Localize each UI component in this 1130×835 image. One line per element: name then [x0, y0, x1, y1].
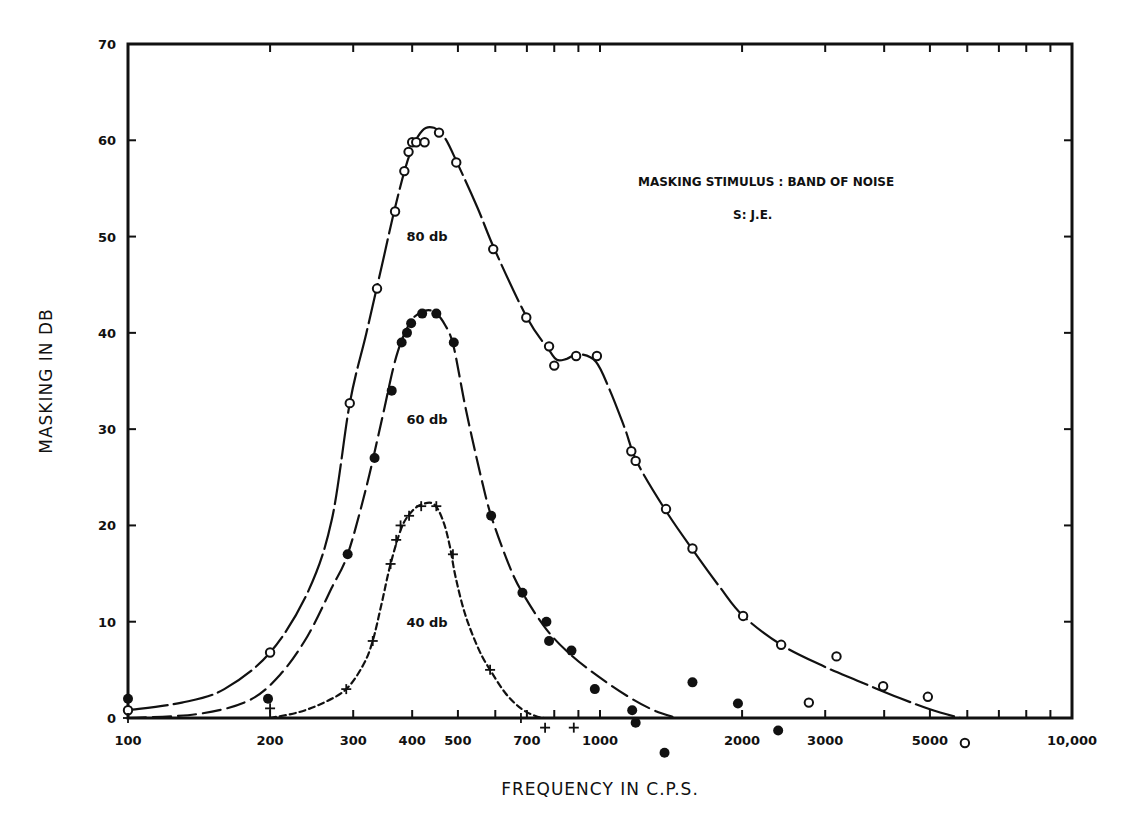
data-point-80-db [391, 207, 399, 215]
data-point-80-db [489, 245, 497, 253]
data-point-60-db [660, 748, 670, 758]
data-point-40-db [516, 713, 526, 723]
data-point-80-db [924, 693, 932, 701]
x-tick-label: 100 [114, 733, 141, 748]
data-point-80-db [412, 138, 420, 146]
y-tick-label: 40 [98, 326, 116, 341]
data-point-80-db [373, 284, 381, 292]
data-point-60-db [733, 699, 743, 709]
y-tick-label: 30 [98, 422, 116, 437]
data-point-80-db [879, 682, 887, 690]
data-point-60-db [417, 309, 427, 319]
plot-frame [128, 44, 1072, 718]
data-point-80-db [593, 352, 601, 360]
x-axis-title: FREQUENCY IN C.P.S. [501, 779, 699, 799]
ticks [128, 44, 1072, 718]
data-point-40-db [341, 684, 351, 694]
data-point-80-db [832, 652, 840, 660]
data-point-60-db [449, 337, 459, 347]
data-point-80-db [961, 739, 969, 747]
x-tick-label: 500 [444, 733, 471, 748]
annotation-subject: S: J.E. [733, 208, 772, 222]
data-point-60-db [387, 386, 397, 396]
data-point-80-db [627, 447, 635, 455]
series-label-80-db: 80 db [406, 229, 447, 244]
data-point-40-db [485, 665, 495, 675]
data-point-60-db [773, 726, 783, 736]
y-axis-title: MASKING IN DB [36, 308, 56, 453]
data-point-40-db [540, 723, 550, 733]
data-point-40-db [448, 549, 458, 559]
data-point-60-db [627, 705, 637, 715]
x-tick-label: 400 [399, 733, 426, 748]
x-tick-label: 3000 [807, 733, 843, 748]
data-point-40-db [386, 559, 396, 569]
data-point-40-db [265, 703, 275, 713]
data-point-60-db [263, 694, 273, 704]
x-tick-label: 10,000 [1047, 733, 1097, 748]
data-point-80-db [777, 641, 785, 649]
y-tick-label: 70 [98, 37, 116, 52]
series-label-60-db: 60 db [406, 412, 447, 427]
data-point-40-db [431, 501, 441, 511]
data-point-60-db [343, 549, 353, 559]
data-point-60-db [541, 617, 551, 627]
x-tick-label: 200 [257, 733, 284, 748]
series-label-40-db: 40 db [406, 615, 447, 630]
data-point-80-db [404, 148, 412, 156]
data-point-60-db [431, 309, 441, 319]
data-point-60-db [486, 511, 496, 521]
y-tick-label: 20 [98, 518, 116, 533]
data-point-80-db [452, 158, 460, 166]
data-point-40-db [569, 723, 579, 733]
curves [128, 127, 960, 718]
data-point-80-db [400, 167, 408, 175]
data-point-60-db [402, 328, 412, 338]
x-tick-label: 1000 [582, 733, 618, 748]
data-point-60-db [631, 718, 641, 728]
y-tick-label: 60 [98, 133, 116, 148]
data-point-40-db [391, 535, 401, 545]
data-point-60-db [123, 694, 133, 704]
series-line-80-db [128, 127, 960, 718]
data-point-60-db [397, 337, 407, 347]
data-point-80-db [550, 361, 558, 369]
data-point-60-db [687, 677, 697, 687]
data-point-80-db [662, 505, 670, 513]
data-point-60-db [370, 453, 380, 463]
series-line-60-db [128, 310, 676, 718]
y-tick-label: 0 [107, 711, 116, 726]
data-point-60-db [517, 588, 527, 598]
data-point-80-db [545, 342, 553, 350]
data-point-80-db [522, 313, 530, 321]
data-point-60-db [590, 684, 600, 694]
data-point-80-db [346, 399, 354, 407]
y-tick-label: 50 [98, 230, 116, 245]
labels: 100200300400500700100020003000500010,000… [98, 37, 1097, 748]
data-point-40-db [368, 636, 378, 646]
data-point-80-db [739, 612, 747, 620]
data-point-60-db [566, 646, 576, 656]
data-point-60-db [406, 318, 416, 328]
annotation-stimulus: MASKING STIMULUS : BAND OF NOISE [638, 175, 894, 189]
x-tick-label: 700 [513, 733, 540, 748]
data-point-80-db [572, 352, 580, 360]
masking-chart: 100200300400500700100020003000500010,000… [0, 0, 1130, 835]
series-line-40-db [270, 503, 544, 718]
y-tick-label: 10 [98, 615, 116, 630]
data-point-80-db [805, 698, 813, 706]
x-tick-label: 5000 [912, 733, 948, 748]
data-point-80-db [631, 457, 639, 465]
x-tick-label: 2000 [724, 733, 760, 748]
data-point-80-db [688, 544, 696, 552]
data-point-80-db [420, 138, 428, 146]
axes [128, 44, 1072, 718]
data-point-60-db [544, 636, 554, 646]
markers [123, 128, 969, 757]
data-point-40-db [123, 713, 133, 723]
data-point-80-db [266, 648, 274, 656]
data-point-80-db [435, 128, 443, 136]
x-tick-label: 300 [340, 733, 367, 748]
